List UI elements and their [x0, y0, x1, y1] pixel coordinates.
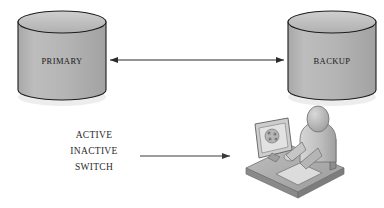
node-label-primary: PRIMARY	[18, 56, 106, 66]
diagram-vector-layer	[0, 0, 384, 208]
node-label-backup: BACKUP	[288, 56, 376, 66]
state-label-active: ACTIVE	[46, 130, 142, 140]
person-head	[307, 106, 329, 132]
state-label-inactive: INACTIVE	[46, 146, 142, 156]
node-workstation	[246, 106, 344, 198]
state-label-switch: SWITCH	[46, 162, 142, 172]
diagram-canvas: PRIMARY BACKUP ACTIVE INACTIVE SWITCH	[0, 0, 384, 208]
